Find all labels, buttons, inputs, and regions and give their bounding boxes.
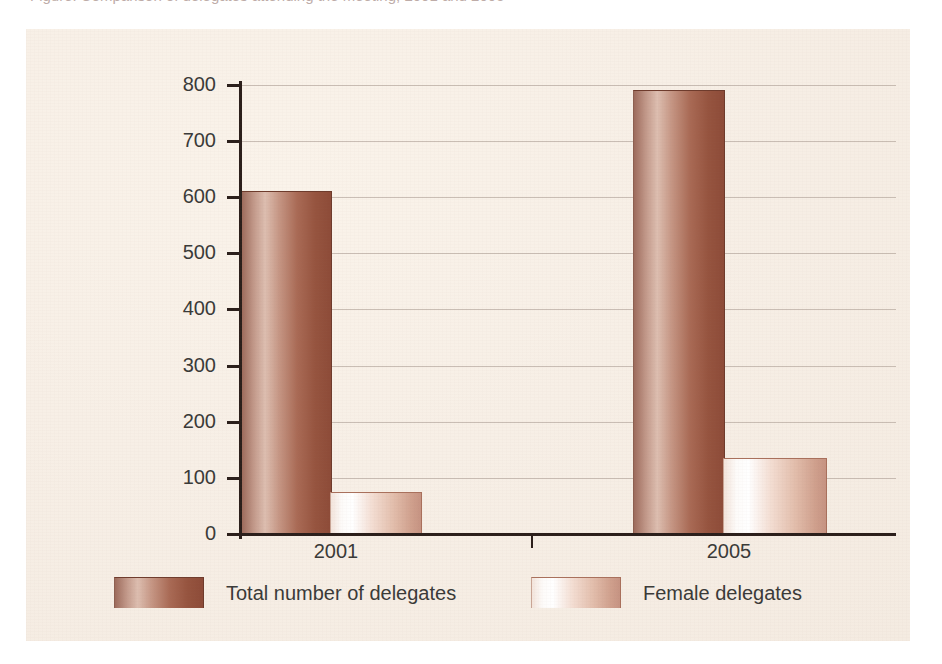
- legend-label-female-delegates: Female delegates: [643, 583, 802, 603]
- chart-legend: Total number of delegates Female delegat…: [26, 577, 910, 617]
- figure-panel: 800 700 600 500 400 300 200 100 0 2001 2…: [26, 29, 910, 641]
- y-axis-label-500: 500: [146, 242, 216, 262]
- y-tick-800: [227, 84, 241, 87]
- x-axis-label-2005: 2005: [674, 541, 784, 561]
- y-tick-0: [227, 533, 241, 536]
- y-tick-100: [227, 477, 241, 480]
- y-tick-200: [227, 421, 241, 424]
- y-tick-500: [227, 252, 241, 255]
- y-axis-label-300: 300: [146, 355, 216, 375]
- legend-label-total-delegates: Total number of delegates: [226, 583, 456, 603]
- x-axis-line: [239, 533, 896, 536]
- legend-swatch-total-delegates: [114, 577, 204, 608]
- y-axis-label-700: 700: [146, 130, 216, 150]
- y-axis-label-600: 600: [146, 186, 216, 206]
- legend-item-female-delegates: Female delegates: [531, 577, 802, 608]
- bar-2005-female-delegates: [723, 458, 827, 535]
- y-axis-label-400: 400: [146, 298, 216, 318]
- y-axis-label-800: 800: [146, 74, 216, 94]
- bar-chart-plot-area: 800 700 600 500 400 300 200 100 0 2001 2…: [26, 29, 910, 641]
- y-tick-300: [227, 365, 241, 368]
- y-axis-label-0: 0: [146, 523, 216, 543]
- gridline-700: [241, 141, 896, 142]
- figure-caption-strip: Figure: Comparison of delegates attendin…: [0, 0, 942, 12]
- x-axis-label-2001: 2001: [281, 541, 391, 561]
- gridline-300: [241, 366, 896, 367]
- legend-item-total-delegates: Total number of delegates: [114, 577, 456, 608]
- bar-2001-female-delegates: [330, 492, 422, 535]
- gridline-600: [241, 197, 896, 198]
- y-tick-700: [227, 140, 241, 143]
- x-axis-category-separator-tick: [531, 536, 533, 548]
- bar-2005-total-delegates: [633, 90, 725, 535]
- gridline-200: [241, 422, 896, 423]
- gridline-400: [241, 309, 896, 310]
- y-axis-label-200: 200: [146, 411, 216, 431]
- y-tick-400: [227, 308, 241, 311]
- gridline-800: [241, 85, 896, 86]
- y-axis-label-100: 100: [146, 467, 216, 487]
- gridline-500: [241, 253, 896, 254]
- legend-swatch-female-delegates: [531, 577, 621, 608]
- y-tick-600: [227, 196, 241, 199]
- figure-caption-text: Figure: Comparison of delegates attendin…: [30, 0, 505, 4]
- bar-2001-total-delegates: [241, 191, 332, 535]
